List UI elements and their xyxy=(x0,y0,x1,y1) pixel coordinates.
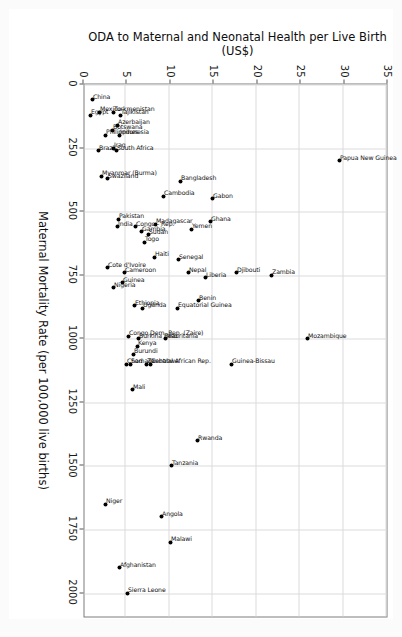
data-point-label: Pakistan xyxy=(119,212,144,219)
x-tick-label: 0 xyxy=(66,80,77,86)
y-tick-mark xyxy=(343,79,344,83)
data-point-label: India xyxy=(117,219,132,226)
data-point-label: Malawi xyxy=(170,535,191,542)
gridline-horizontal xyxy=(168,84,169,616)
gridline-horizontal xyxy=(255,84,256,616)
x-axis-title: Maternal Mortality Rate (per 100,000 liv… xyxy=(35,83,49,617)
x-tick-label: 1000 xyxy=(66,325,77,350)
gridline-vertical xyxy=(84,402,386,403)
data-point-label: Angola xyxy=(162,509,183,516)
scatter-chart: Papua New GuineaMozambiqueZambiaDjibouti… xyxy=(9,9,402,637)
data-point-label: Papua New Guinea xyxy=(340,153,397,160)
data-point-label: Bangladesh xyxy=(181,174,216,181)
x-tick-label: 2000 xyxy=(66,579,77,604)
data-point-label: Ethiopia xyxy=(135,298,159,305)
data-point-label: Equatorial Guinea xyxy=(177,301,231,308)
gridline-horizontal xyxy=(298,84,299,616)
gridline-vertical xyxy=(84,84,386,85)
x-tick-label: 1250 xyxy=(66,388,77,413)
data-point-label: Liberia xyxy=(206,270,226,277)
data-point-label: Brazil xyxy=(98,143,115,150)
gridline-horizontal xyxy=(211,84,212,616)
data-point-label: Ghana xyxy=(210,214,230,221)
data-point-label: Egypt xyxy=(90,108,107,115)
gridline-horizontal xyxy=(385,84,386,616)
data-point-label: Afghanistan xyxy=(120,560,156,567)
data-point-label: Djibouti xyxy=(236,265,259,272)
data-point-label: Benin xyxy=(199,293,216,300)
rotated-chart-wrapper: Papua New GuineaMozambiqueZambiaDjibouti… xyxy=(9,9,402,637)
x-tick-mark xyxy=(79,464,83,465)
data-point-label: Nepal xyxy=(188,265,205,272)
data-point-label: Cambodia xyxy=(163,189,194,196)
data-point-label: Congo - Rep. xyxy=(135,219,173,226)
data-point-label: Cote d'Ivoire xyxy=(108,260,146,267)
x-tick-label: 500 xyxy=(66,201,77,220)
x-tick-mark xyxy=(79,401,83,402)
y-tick-mark xyxy=(169,79,170,83)
x-tick-mark xyxy=(79,337,83,338)
x-tick-mark xyxy=(79,210,83,211)
data-point-label: Mali xyxy=(132,382,144,389)
data-point-label: Senegal xyxy=(179,252,203,259)
data-point-label: Burundi xyxy=(134,347,158,354)
y-tick-mark xyxy=(299,79,300,83)
data-point-label: Togo xyxy=(144,235,158,242)
x-tick-mark xyxy=(79,274,83,275)
figure-page: Papua New GuineaMozambiqueZambiaDjibouti… xyxy=(0,0,402,637)
data-point-label: Kenya xyxy=(137,339,155,346)
x-tick-label: 750 xyxy=(66,264,77,283)
x-tick-mark xyxy=(79,528,83,529)
data-point-label: Myanmar (Burma) xyxy=(102,169,157,176)
x-tick-label: 250 xyxy=(66,137,77,156)
data-point-label: Tanzania xyxy=(171,458,197,465)
y-tick-mark xyxy=(386,79,387,83)
y-axis-title: ODA to Maternal and Neonatal Health per … xyxy=(85,29,389,57)
data-point-label: Gabon xyxy=(213,191,233,198)
figure-paper: Papua New GuineaMozambiqueZambiaDjibouti… xyxy=(9,9,393,619)
gridline-horizontal xyxy=(342,84,343,616)
plot-area: Papua New GuineaMozambiqueZambiaDjibouti… xyxy=(83,83,387,617)
data-point-label: Nigeria xyxy=(114,280,135,287)
y-tick-mark xyxy=(125,79,126,83)
gridline-vertical xyxy=(84,529,386,530)
data-point-label: Chad xyxy=(127,357,143,364)
x-tick-label: 1500 xyxy=(66,452,77,477)
data-point-label: Sierra Leone xyxy=(128,586,166,593)
gridline-horizontal xyxy=(124,84,125,616)
data-point-label: Congo Dem. Rep. (Zaire) xyxy=(129,329,203,336)
y-tick-mark xyxy=(212,79,213,83)
data-point-label: Rwanda xyxy=(197,433,221,440)
x-tick-label: 1750 xyxy=(66,515,77,540)
y-tick-mark xyxy=(256,79,257,83)
x-tick-mark xyxy=(79,147,83,148)
data-point-label: Mozambique xyxy=(307,331,346,338)
data-point-label: Guinea-Bissau xyxy=(231,357,274,364)
data-point-label: Philippines xyxy=(106,128,138,135)
data-point-label: Niger xyxy=(105,497,121,504)
data-point-label: Haiti xyxy=(155,250,169,257)
data-point-label: China xyxy=(92,92,109,99)
x-tick-mark xyxy=(79,592,83,593)
data-point-label: Zambia xyxy=(272,268,295,275)
y-tick-mark xyxy=(82,79,83,83)
gridline-vertical xyxy=(84,465,386,466)
data-point-label: Yemen xyxy=(192,222,212,229)
